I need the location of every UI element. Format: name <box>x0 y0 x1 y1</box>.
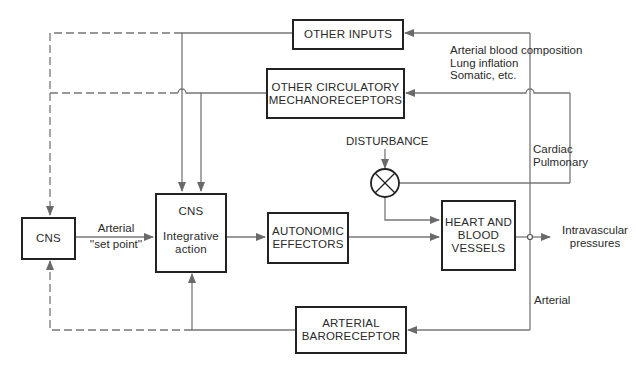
block-cns-setpoint: CNS <box>21 217 76 260</box>
source-cardiac: Cardiac <box>533 143 588 156</box>
disturbance-label: DISTURBANCE <box>346 135 428 148</box>
other-inputs-sources: Arterial blood composition Lung inflatio… <box>450 44 582 82</box>
baroreceptor-label-2: BARORECEPTOR <box>302 330 401 343</box>
heart-label-3: VESSELS <box>452 242 506 255</box>
block-autonomic-effectors: AUTONOMIC EFFECTORS <box>267 212 349 264</box>
block-heart-vessels: HEART AND BLOOD VESSELS <box>441 200 516 271</box>
cns-integrative-label-3: action <box>175 243 207 256</box>
block-other-inputs: OTHER INPUTS <box>292 19 404 50</box>
setpoint-label-2: ''set point'' <box>78 238 154 251</box>
source-lung-inflation: Lung inflation <box>450 57 582 70</box>
heart-label-1: HEART AND <box>445 216 512 229</box>
baroreceptor-source-label: Arterial <box>534 294 570 307</box>
block-other-mechanoreceptors: OTHER CIRCULATORY MECHANORECEPTORS <box>266 68 405 119</box>
output-label-1: Intravascular <box>553 224 637 237</box>
block-arterial-baroreceptor: ARTERIAL BARORECEPTOR <box>295 306 407 354</box>
other-inputs-label: OTHER INPUTS <box>304 28 392 41</box>
cns-integrative-label-2: Integrative <box>163 230 219 243</box>
heart-label-2: BLOOD <box>458 229 499 242</box>
effectors-label-1: AUTONOMIC <box>272 225 344 238</box>
output-node-icon <box>528 235 533 240</box>
junction-to-heart <box>385 197 439 220</box>
mechanoreceptors-label-1: OTHER CIRCULATORY <box>271 81 399 94</box>
block-cns-integrative: CNS Integrative action <box>155 193 227 273</box>
effectors-label-2: EFFECTORS <box>272 238 343 251</box>
cns-integrative-label-1: CNS <box>179 205 204 218</box>
source-arterial-blood: Arterial blood composition <box>450 44 582 57</box>
dashed-other-inputs <box>50 33 182 215</box>
output-label-2: pressures <box>553 237 637 250</box>
output-label: Intravascular pressures <box>553 224 637 249</box>
baroreceptor-label-1: ARTERIAL <box>322 317 380 330</box>
baroreceptor-to-integrative <box>192 274 295 330</box>
cns-setpoint-label: CNS <box>36 232 61 245</box>
setpoint-label-1: Arterial <box>78 222 154 235</box>
setpoint-label: Arterial ''set point'' <box>78 222 154 251</box>
mechanoreceptor-sources: Cardiac Pulmonary <box>533 143 588 168</box>
source-pulmonary: Pulmonary <box>533 156 588 169</box>
mechanoreceptors-to-integrative <box>201 93 266 191</box>
line-to-mechanoreceptors <box>406 89 570 93</box>
mechanoreceptors-label-2: MECHANORECEPTORS <box>269 94 402 107</box>
summing-junction-icon <box>371 169 399 197</box>
source-somatic: Somatic, etc. <box>450 69 582 82</box>
